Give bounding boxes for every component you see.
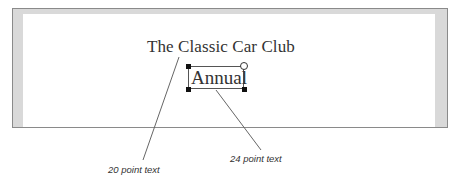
callout-24-point: 24 point text xyxy=(230,153,282,164)
leader-lines xyxy=(0,0,452,188)
leader-line-20pt xyxy=(143,57,179,160)
leader-line-24pt xyxy=(216,90,261,150)
callout-20-point: 20 point text xyxy=(108,164,160,175)
